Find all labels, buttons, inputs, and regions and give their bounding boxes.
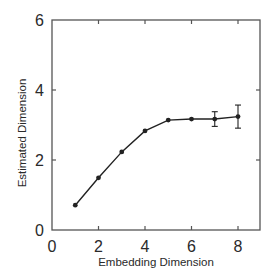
y-tick-label: 2 <box>35 152 44 169</box>
data-point <box>189 117 194 122</box>
x-tick-label: 6 <box>187 238 196 255</box>
x-tick-label: 8 <box>234 238 243 255</box>
y-axis-label: Estimated Dimension <box>16 79 28 188</box>
y-tick-label: 6 <box>35 12 44 29</box>
data-point <box>212 117 217 122</box>
data-point <box>73 203 78 208</box>
data-point <box>236 114 241 119</box>
data-point <box>143 129 148 134</box>
x-tick-label: 2 <box>94 238 103 255</box>
data-point <box>119 150 124 155</box>
data-point <box>166 118 171 123</box>
chart: 024680246 Embedding Dimension Estimated … <box>0 0 278 280</box>
x-axis-label: Embedding Dimension <box>98 256 214 268</box>
axes <box>52 20 260 230</box>
data-series <box>73 105 241 208</box>
x-tick-label: 0 <box>48 238 57 255</box>
x-tick-label: 4 <box>141 238 150 255</box>
y-tick-label: 0 <box>35 222 44 239</box>
line-chart: 024680246 Embedding Dimension Estimated … <box>0 0 278 280</box>
series-line <box>75 117 238 206</box>
y-tick-label: 4 <box>35 82 44 99</box>
data-point <box>96 175 101 180</box>
axis-ticks: 024680246 <box>35 12 260 255</box>
plot-frame <box>52 20 260 230</box>
